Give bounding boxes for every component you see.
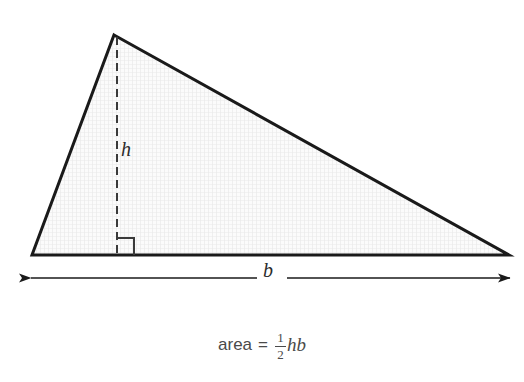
height-label: h xyxy=(121,139,131,159)
formula-fraction-one-half: 1 2 xyxy=(275,331,286,361)
area-formula: area = 1 2 hb xyxy=(0,330,524,360)
formula-equals-sign: = xyxy=(258,335,268,355)
fraction-numerator: 1 xyxy=(276,331,285,346)
triangle-shape xyxy=(32,35,509,255)
base-label: b xyxy=(263,260,273,280)
formula-area-word: area xyxy=(218,335,252,355)
formula-variables: hb xyxy=(287,334,306,356)
diagram-page: h b area = 1 2 hb xyxy=(0,0,524,382)
triangle-figure xyxy=(0,0,524,382)
fraction-denominator: 2 xyxy=(276,347,285,362)
